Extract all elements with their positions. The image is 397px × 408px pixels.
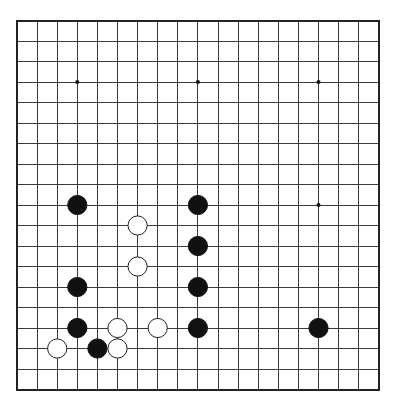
white-stone <box>148 318 167 337</box>
black-stone <box>188 195 207 214</box>
black-stone <box>68 277 87 296</box>
white-stone <box>108 318 127 337</box>
star-point <box>317 80 321 84</box>
black-stone <box>88 339 107 358</box>
white-stone <box>108 339 127 358</box>
black-stone <box>68 195 87 214</box>
black-stone <box>188 236 207 255</box>
black-stone <box>188 277 207 296</box>
stones-layer <box>48 195 329 358</box>
white-stone <box>128 257 147 276</box>
white-stone <box>48 339 67 358</box>
black-stone <box>68 318 87 337</box>
star-point <box>196 80 200 84</box>
black-stone <box>309 318 328 337</box>
star-point <box>317 203 321 207</box>
black-stone <box>188 318 207 337</box>
go-board[interactable] <box>0 0 397 408</box>
star-point <box>75 80 79 84</box>
white-stone <box>128 216 147 235</box>
